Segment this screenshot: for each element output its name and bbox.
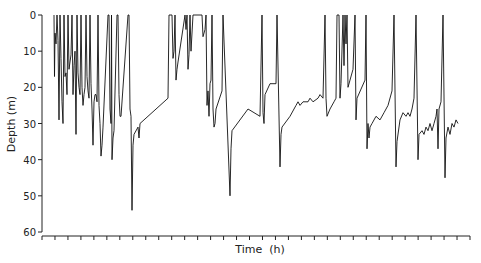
depth-line xyxy=(54,15,458,210)
x-axis-label: Time (h) xyxy=(234,243,284,256)
y-tick-label: 30 xyxy=(23,119,36,130)
y-tick-label: 40 xyxy=(23,155,36,166)
y-tick-label: 50 xyxy=(23,191,36,202)
y-axis-label: Depth (m) xyxy=(5,96,18,152)
y-tick-label: 20 xyxy=(23,82,36,93)
y-tick-label: 60 xyxy=(23,227,36,238)
y-ticks: 0102030405060 xyxy=(23,10,42,238)
dive-depth-chart: 0102030405060 Depth (m) Time (h) xyxy=(0,0,481,263)
depth-trace xyxy=(54,15,458,210)
y-axis: 0102030405060 Depth (m) xyxy=(5,10,42,238)
y-tick-label: 10 xyxy=(23,46,36,57)
x-axis: Time (h) xyxy=(42,236,470,256)
y-tick-label: 0 xyxy=(30,10,36,21)
x-ticks xyxy=(42,236,470,240)
